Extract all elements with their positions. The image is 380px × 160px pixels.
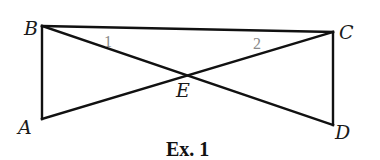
point-label-a: A	[16, 116, 32, 138]
point-label-c: C	[339, 21, 354, 43]
point-label-d: D	[334, 121, 350, 143]
figure-caption: Ex. 1	[166, 138, 209, 160]
diagram-canvas: B C A D E 1 2 Ex. 1	[0, 0, 380, 160]
geometry-figure: B C A D E 1 2 Ex. 1	[0, 0, 380, 160]
segment-bc	[42, 26, 333, 32]
point-label-b: B	[23, 17, 38, 39]
angle-label-1: 1	[104, 33, 112, 50]
segment-bd	[42, 26, 333, 125]
point-label-e: E	[175, 79, 190, 101]
angle-label-2: 2	[253, 35, 261, 52]
